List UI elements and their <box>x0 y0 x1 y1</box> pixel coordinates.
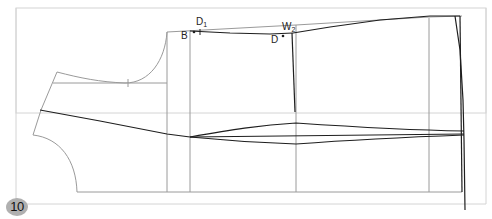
figure-number-badge: 10 <box>6 198 28 216</box>
label-b: B <box>181 31 188 41</box>
label-d: D <box>271 35 278 45</box>
pattern-diagram <box>0 0 492 219</box>
label-w2: W2 <box>282 22 295 33</box>
label-b-main: B <box>181 30 188 41</box>
label-d1: D1 <box>196 17 207 28</box>
diagram-frame <box>16 8 486 113</box>
guide-lines <box>33 16 462 192</box>
diagram-frame-bottom <box>16 8 486 204</box>
label-d-main: D <box>271 34 278 45</box>
label-w2-sub: 2 <box>291 26 295 33</box>
label-d1-sub: 1 <box>203 21 207 28</box>
